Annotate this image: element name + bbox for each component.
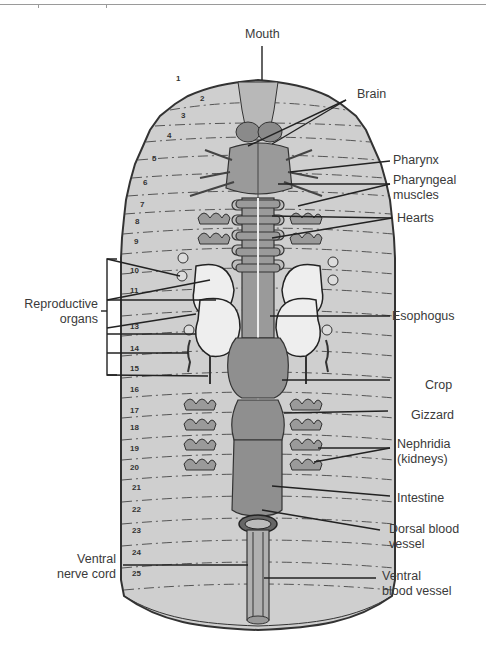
segment-number: 4 xyxy=(167,131,171,140)
label-line: Reproductive xyxy=(24,297,98,312)
segment-number: 3 xyxy=(181,111,185,120)
label-pharynx: Pharynx xyxy=(393,153,439,168)
label-gizzard: Gizzard xyxy=(411,408,454,423)
segment-number: 17 xyxy=(130,406,139,415)
segment-number: 23 xyxy=(132,526,141,535)
gizzard xyxy=(232,400,285,440)
label-line: Dorsal blood xyxy=(389,522,459,537)
segment-number: 21 xyxy=(132,483,141,492)
label-intestine: Intestine xyxy=(397,491,444,506)
segment-number: 16 xyxy=(130,385,139,394)
label-brain: Brain xyxy=(357,87,386,102)
segment-number: 5 xyxy=(152,154,156,163)
label-line: vessel xyxy=(389,537,459,552)
label-line: muscles xyxy=(393,188,456,203)
segment-number: 15 xyxy=(130,364,139,373)
label-hearts: Hearts xyxy=(397,211,434,226)
segment-number: 18 xyxy=(130,423,139,432)
segment-number: 20 xyxy=(130,463,139,472)
brain xyxy=(236,122,260,142)
segment-number: 6 xyxy=(143,178,147,187)
label-ventral-nerve-cord: Ventral nerve cord xyxy=(57,552,116,582)
label-reproductive-organs: Reproductive organs xyxy=(24,297,98,327)
label-line: Nephridia xyxy=(397,437,451,452)
ventral-nerve-cord xyxy=(247,530,269,620)
segment-number: 13 xyxy=(130,322,139,331)
segment-number: 14 xyxy=(130,344,139,353)
label-line: blood vessel xyxy=(382,584,452,599)
label-nephridia: Nephridia (kidneys) xyxy=(397,437,451,467)
segment-number: 9 xyxy=(134,237,138,246)
segment-number: 25 xyxy=(132,569,141,578)
segment-number: 8 xyxy=(135,217,139,226)
label-line: Ventral xyxy=(57,552,116,567)
label-line: Ventral xyxy=(382,569,452,584)
segment-number: 10 xyxy=(130,266,139,275)
label-line: Pharyngeal xyxy=(393,173,456,188)
label-esophogus: Esophogus xyxy=(392,309,455,324)
segment-number: 22 xyxy=(132,505,141,514)
segment-number: 11 xyxy=(130,286,138,295)
segment-number: 7 xyxy=(140,200,144,209)
label-line: nerve cord xyxy=(57,567,116,582)
label-pharyngeal-muscles: Pharyngeal muscles xyxy=(393,173,456,203)
segment-number: 24 xyxy=(132,548,141,557)
intestine xyxy=(232,440,282,516)
label-crop: Crop xyxy=(425,378,452,393)
label-ventral-blood-vessel: Ventral blood vessel xyxy=(382,569,452,599)
segment-number: 2 xyxy=(200,94,204,103)
label-line: organs xyxy=(24,312,98,327)
label-mouth: Mouth xyxy=(245,27,280,42)
crop xyxy=(228,338,289,398)
label-line: (kidneys) xyxy=(397,452,451,467)
label-dorsal-blood-vessel: Dorsal blood vessel xyxy=(389,522,459,552)
segment-number: 19 xyxy=(130,444,139,453)
pharynx xyxy=(226,143,292,194)
segment-number: 1 xyxy=(176,74,180,83)
